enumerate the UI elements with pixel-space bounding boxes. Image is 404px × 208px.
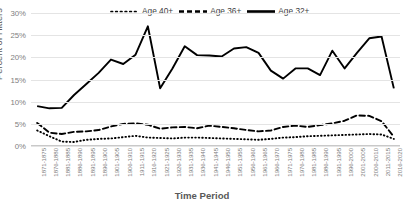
series-line [37,115,394,136]
x-tick-label: 2011-2015 [384,148,391,176]
x-tick-label: 1871-1875 [40,148,47,177]
series-line [37,26,394,108]
x-tick-label: 1951-1955 [236,148,243,177]
gridline [31,80,400,81]
x-axis-ticks: 1871-18751876-18801881-18851886-18901891… [31,148,400,188]
x-tick-label: 1896-1900 [101,148,108,177]
x-axis-line [31,145,400,146]
x-tick-label: 1931-1935 [187,148,194,177]
x-tick-label: 1881-1885 [64,148,71,177]
x-tick-label: 1981-1985 [310,148,317,177]
gridline [31,35,400,36]
x-tick-label: 1986-1990 [322,148,329,177]
y-tick-label: 25% [0,31,26,40]
x-tick-label: 1961-1965 [261,148,268,177]
y-axis-title: Percent of Hitters [0,8,4,80]
y-tick-label: 0% [0,142,26,151]
gridline [31,124,400,125]
x-tick-label: 1921-1925 [163,148,170,177]
x-axis-title: Time Period [0,190,404,201]
y-tick-label: 5% [0,119,26,128]
y-tick-label: 10% [0,97,26,106]
x-tick-label: 1876-1880 [52,148,59,177]
gridline [31,13,400,14]
x-tick-label: 1946-1950 [224,148,231,177]
x-tick-label: 1971-1975 [286,148,293,177]
x-tick-label: 1976-1980 [298,148,305,177]
x-tick-label: 1926-1930 [175,148,182,177]
y-tick-label: 30% [0,9,26,18]
x-tick-label: 1956-1960 [249,148,256,177]
plot-area: 0%5%10%15%20%25%30% [31,13,400,146]
x-tick-label: 1991-1995 [335,148,342,177]
x-tick-label: 2006-2010 [372,148,379,177]
chart-container: Age 40+ Age 36+ Age 32+ Percent of Hitte… [0,0,404,208]
x-tick-label: 1941-1945 [212,148,219,177]
x-tick-label: 1901-1905 [113,148,120,177]
x-tick-label: 1916-1920 [150,148,157,177]
chart-title [0,0,404,1]
gridline [31,57,400,58]
x-tick-label: 1911-1915 [138,148,145,176]
y-tick-label: 20% [0,53,26,62]
x-tick-label: 1891-1895 [89,148,96,177]
x-tick-label: 1886-1890 [76,148,83,177]
x-tick-label: 1996-2000 [347,148,354,177]
x-tick-label: 1906-1910 [126,148,133,177]
series-line [37,130,394,142]
x-tick-label: 2001-2005 [359,148,366,177]
gridline [31,102,400,103]
x-tick-label: 1966-1970 [273,148,280,177]
x-tick-label: 2016-2020 [396,148,403,177]
x-tick-label: 1936-1940 [199,148,206,177]
y-tick-label: 15% [0,75,26,84]
